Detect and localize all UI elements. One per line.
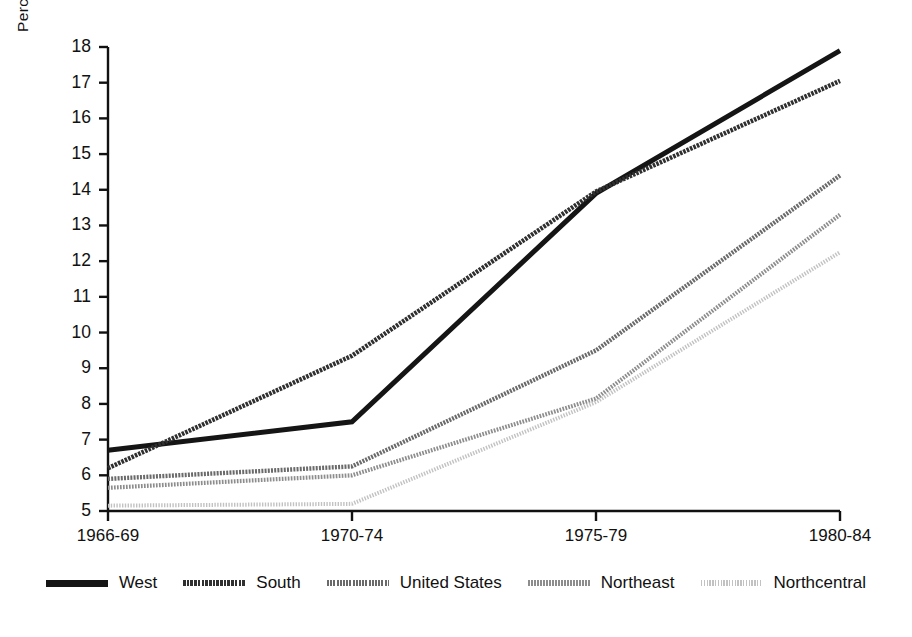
y-tick-label: 8 <box>57 395 91 413</box>
y-tick-label: 13 <box>57 216 91 234</box>
series-line <box>108 175 840 478</box>
chart-legend: WestSouthUnited StatesNortheastNorthcent… <box>0 566 912 600</box>
y-axis-title: Percentage of difference <box>14 0 46 32</box>
legend-label: Northcentral <box>774 573 867 593</box>
y-tick-label: 11 <box>57 288 91 306</box>
x-tick-label: 1975-79 <box>536 527 656 544</box>
legend-item[interactable]: South <box>183 573 300 593</box>
legend-swatch-icon <box>183 580 245 586</box>
x-tick-label: 1966-69 <box>48 527 168 544</box>
y-tick-label: 18 <box>57 38 91 56</box>
legend-item[interactable]: United States <box>327 573 502 593</box>
x-tick-label: 1970-74 <box>292 527 412 544</box>
legend-item[interactable]: Northeast <box>528 573 675 593</box>
y-tick-label: 7 <box>57 431 91 449</box>
line-chart: Percentage of difference 567891011121314… <box>0 0 912 637</box>
legend-item[interactable]: West <box>46 573 157 593</box>
y-tick-label: 10 <box>57 324 91 342</box>
y-tick-label: 15 <box>57 145 91 163</box>
y-tick-label: 6 <box>57 466 91 484</box>
legend-label: South <box>256 573 300 593</box>
y-tick-label: 9 <box>57 359 91 377</box>
legend-label: Northeast <box>601 573 675 593</box>
legend-item[interactable]: Northcentral <box>701 573 867 593</box>
legend-swatch-icon <box>528 580 590 585</box>
x-tick-label: 1980-84 <box>780 527 900 544</box>
series-line <box>108 252 840 505</box>
y-tick-label: 16 <box>57 109 91 127</box>
legend-swatch-icon <box>701 580 763 585</box>
series-line <box>108 51 840 451</box>
legend-swatch-icon <box>46 580 108 587</box>
y-tick-label: 17 <box>57 74 91 92</box>
y-tick-label: 14 <box>57 181 91 199</box>
y-tick-label: 5 <box>57 502 91 520</box>
legend-label: West <box>119 573 157 593</box>
legend-swatch-icon <box>327 580 389 586</box>
y-tick-label: 12 <box>57 252 91 270</box>
data-series-group <box>108 51 840 506</box>
legend-label: United States <box>400 573 502 593</box>
